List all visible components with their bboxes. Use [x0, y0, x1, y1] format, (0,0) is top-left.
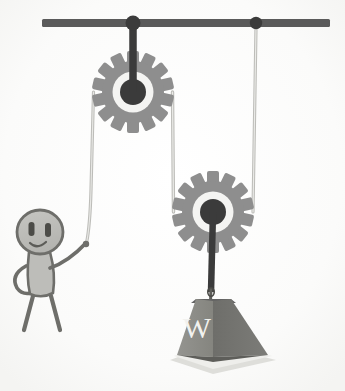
weight-hanger-rod	[211, 212, 213, 292]
anchor-left	[126, 16, 141, 31]
eye-left	[29, 222, 35, 236]
pulley-illustration: W	[0, 0, 345, 391]
scene-canvas: W	[0, 0, 345, 391]
ceiling-beam	[42, 19, 330, 27]
hand-grip	[83, 241, 89, 247]
eye-right	[45, 223, 51, 237]
figure-head	[17, 210, 63, 254]
anchor-right	[250, 17, 262, 29]
figure-body	[28, 252, 54, 296]
weight-label: W	[183, 311, 212, 344]
